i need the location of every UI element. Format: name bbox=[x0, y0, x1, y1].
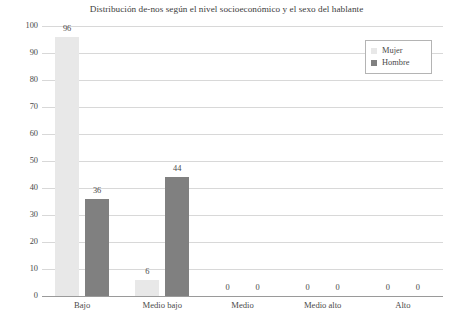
bar-mujer-1[interactable] bbox=[135, 280, 159, 296]
y-axis-tick-label: 0 bbox=[8, 292, 38, 300]
legend-swatch-hombre-icon bbox=[371, 60, 377, 66]
bar-value-label: 0 bbox=[376, 284, 400, 292]
legend-item-mujer[interactable]: Mujer bbox=[371, 45, 426, 57]
x-axis-tick-label: Medio bbox=[202, 300, 282, 310]
y-axis-tick-label: 60 bbox=[8, 130, 38, 138]
x-axis-tick-label: Bajo bbox=[42, 300, 122, 310]
bar-value-label: 0 bbox=[326, 284, 350, 292]
y-axis-tick-label: 70 bbox=[8, 103, 38, 111]
gridline bbox=[42, 134, 443, 135]
bar-value-label: 0 bbox=[216, 284, 240, 292]
bar-value-label: 96 bbox=[55, 25, 79, 33]
bar-hombre-1[interactable] bbox=[165, 177, 189, 296]
x-axis: BajoMedio bajoMedioMedio altoAlto bbox=[42, 300, 443, 320]
bar-hombre-0[interactable] bbox=[85, 199, 109, 296]
y-axis-tick-label: 100 bbox=[8, 22, 38, 30]
bar-value-label: 36 bbox=[85, 187, 109, 195]
bar-value-label: 0 bbox=[246, 284, 270, 292]
y-axis-tick-label: 20 bbox=[8, 238, 38, 246]
bar-value-label: 0 bbox=[406, 284, 430, 292]
legend-label-mujer: Mujer bbox=[382, 47, 402, 55]
bar-value-label: 6 bbox=[135, 268, 159, 276]
y-axis-tick-label: 10 bbox=[8, 265, 38, 273]
legend-label-hombre: Hombre bbox=[382, 59, 409, 67]
y-axis: 1009080706050403020100 bbox=[0, 26, 38, 296]
x-axis-tick-label: Medio alto bbox=[283, 300, 363, 310]
legend-item-hombre[interactable]: Hombre bbox=[371, 57, 426, 69]
bar-chart: Distribución de-nos según el nivel socio… bbox=[0, 0, 453, 328]
bar-mujer-0[interactable] bbox=[55, 37, 79, 296]
bar-value-label: 0 bbox=[296, 284, 320, 292]
bar-value-label: 44 bbox=[165, 165, 189, 173]
gridline bbox=[42, 80, 443, 81]
legend-swatch-mujer-icon bbox=[371, 48, 377, 54]
gridline bbox=[42, 161, 443, 162]
y-axis-tick-label: 40 bbox=[8, 184, 38, 192]
chart-legend: Mujer Hombre bbox=[365, 40, 432, 74]
y-axis-tick-label: 30 bbox=[8, 211, 38, 219]
axis-baseline bbox=[42, 296, 443, 297]
y-axis-tick-label: 80 bbox=[8, 76, 38, 84]
y-axis-tick-label: 50 bbox=[8, 157, 38, 165]
gridline bbox=[42, 26, 443, 27]
y-axis-tick-label: 90 bbox=[8, 49, 38, 57]
chart-title: Distribución de-nos según el nivel socio… bbox=[0, 4, 453, 14]
x-axis-tick-label: Medio bajo bbox=[122, 300, 202, 310]
x-axis-tick-label: Alto bbox=[363, 300, 443, 310]
gridline bbox=[42, 107, 443, 108]
